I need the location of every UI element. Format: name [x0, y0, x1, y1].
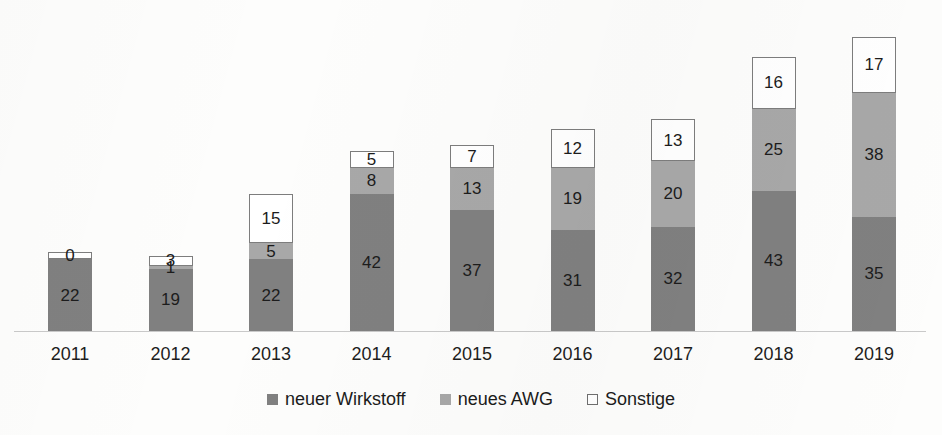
bar-segment-sonstige-2014: 5 — [350, 151, 394, 167]
bar-segment-wirkstoff-2013: 22 — [249, 259, 293, 331]
bar-segment-wirkstoff-2016: 31 — [551, 230, 595, 331]
bar-segment-sonstige-2013: 15 — [249, 194, 293, 243]
x-tick-label-2014: 2014 — [350, 344, 394, 365]
legend-swatch-icon — [587, 394, 598, 405]
bar-value-label: 20 — [664, 185, 683, 202]
legend-label: neuer Wirkstoff — [285, 389, 406, 410]
bar-value-label: 0 — [65, 247, 74, 264]
bar-group-2017: 132032 — [651, 119, 695, 331]
legend-swatch-icon — [440, 394, 451, 405]
bar-value-label: 7 — [467, 148, 476, 165]
bar-segment-sonstige-2019: 17 — [852, 37, 896, 93]
bar-value-label: 43 — [764, 252, 783, 269]
bar-value-label: 19 — [563, 190, 582, 207]
bar-value-label: 5 — [266, 243, 275, 260]
bar-group-2014: 5842 — [350, 151, 394, 331]
bar-value-label: 32 — [664, 270, 683, 287]
x-tick-label-2018: 2018 — [752, 344, 796, 365]
bar-segment-sonstige-2018: 16 — [752, 57, 796, 109]
bar-value-label: 31 — [563, 272, 582, 289]
legend-item-0[interactable]: neuer Wirkstoff — [267, 389, 406, 410]
bar-segment-awg-2014: 8 — [350, 168, 394, 194]
x-tick-label-2019: 2019 — [852, 344, 896, 365]
x-tick-label-2016: 2016 — [551, 344, 595, 365]
bar-segment-wirkstoff-2012: 19 — [149, 269, 193, 331]
bar-segment-wirkstoff-2011: 22 — [48, 259, 92, 331]
bar-segment-wirkstoff-2014: 42 — [350, 194, 394, 331]
bar-value-label: 16 — [764, 74, 783, 91]
plot-area: 0223119155225842713371219311320321625431… — [0, 0, 942, 332]
bar-segment-awg-2018: 25 — [752, 109, 796, 191]
bar-group-2013: 15522 — [249, 194, 293, 331]
bar-group-2015: 71337 — [450, 145, 494, 331]
chart-legend: neuer Wirkstoffneues AWGSonstige — [0, 385, 942, 413]
bar-value-label: 8 — [367, 172, 376, 189]
stacked-bar-chart: 0223119155225842713371219311320321625431… — [0, 0, 942, 435]
bar-value-label: 13 — [463, 180, 482, 197]
bar-value-label: 1 — [166, 259, 175, 276]
bar-segment-wirkstoff-2019: 35 — [852, 217, 896, 331]
bar-segment-awg-2017: 20 — [651, 161, 695, 226]
legend-item-1[interactable]: neues AWG — [440, 389, 553, 410]
bar-segment-awg-2019: 38 — [852, 93, 896, 217]
bar-segment-sonstige-2016: 12 — [551, 129, 595, 168]
bar-group-2016: 121931 — [551, 129, 595, 331]
legend-label: neues AWG — [458, 389, 553, 410]
bar-group-2019: 173835 — [852, 37, 896, 331]
bar-segment-awg-2013: 5 — [249, 243, 293, 259]
legend-label: Sonstige — [605, 389, 675, 410]
bar-segment-wirkstoff-2018: 43 — [752, 191, 796, 331]
legend-item-2[interactable]: Sonstige — [587, 389, 675, 410]
x-axis: 201120122013201420152016201720182019 — [0, 336, 942, 370]
bar-value-label: 35 — [865, 265, 884, 282]
bar-segment-wirkstoff-2015: 37 — [450, 210, 494, 331]
x-tick-label-2013: 2013 — [249, 344, 293, 365]
bar-segment-sonstige-2011: 0 — [48, 252, 92, 259]
bar-group-2011: 022 — [48, 252, 92, 331]
bar-segment-sonstige-2017: 13 — [651, 119, 695, 161]
x-tick-label-2017: 2017 — [651, 344, 695, 365]
bar-value-label: 13 — [664, 132, 683, 149]
bar-value-label: 5 — [367, 151, 376, 168]
x-tick-label-2012: 2012 — [149, 344, 193, 365]
bar-value-label: 12 — [563, 140, 582, 157]
x-axis-baseline — [14, 331, 926, 332]
bar-segment-sonstige-2015: 7 — [450, 145, 494, 168]
bar-value-label: 15 — [262, 210, 281, 227]
bar-value-label: 25 — [764, 141, 783, 158]
bar-value-label: 19 — [161, 291, 180, 308]
legend-swatch-icon — [267, 394, 278, 405]
x-tick-label-2011: 2011 — [48, 344, 92, 365]
bar-value-label: 22 — [262, 287, 281, 304]
bar-group-2012: 3119 — [149, 256, 193, 331]
bar-value-label: 42 — [362, 254, 381, 271]
x-tick-label-2015: 2015 — [450, 344, 494, 365]
bar-value-label: 22 — [61, 287, 80, 304]
bar-segment-awg-2016: 19 — [551, 168, 595, 230]
bar-group-2018: 162543 — [752, 57, 796, 331]
bar-segment-wirkstoff-2017: 32 — [651, 227, 695, 331]
bar-value-label: 38 — [865, 146, 884, 163]
bar-value-label: 17 — [865, 56, 884, 73]
bar-segment-awg-2015: 13 — [450, 168, 494, 210]
bar-value-label: 37 — [463, 262, 482, 279]
